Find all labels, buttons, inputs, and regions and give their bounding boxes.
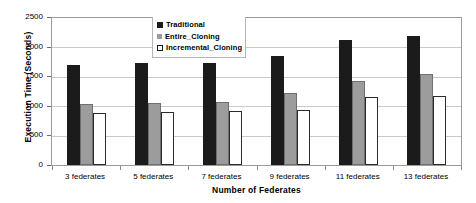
x-axis-tick-mark	[52, 166, 53, 170]
bar-traditional	[203, 63, 216, 165]
x-axis-tick-labels: 3 federates5 federates7 federates9 feder…	[51, 172, 462, 186]
legend-label-traditional: Traditional	[166, 21, 205, 29]
x-axis-tick-mark	[188, 166, 189, 170]
legend-item-incremental-cloning: Incremental_Cloning	[157, 43, 241, 53]
x-axis-tick-mark	[325, 166, 326, 170]
y-axis-tick-label: 2500	[9, 13, 43, 21]
legend: Traditional Entire_Cloning Incremental_C…	[152, 17, 246, 58]
bar-entire	[352, 81, 365, 165]
legend-label-incremental-cloning: Incremental_Cloning	[166, 44, 242, 52]
x-axis-tick-mark	[120, 166, 121, 170]
bar-incremental	[365, 97, 378, 165]
bar-groups	[52, 18, 461, 165]
x-axis-tick-mark	[461, 166, 462, 170]
bar-entire	[148, 103, 161, 165]
bar-incremental	[93, 113, 106, 165]
bar-group	[67, 18, 106, 165]
bar-entire	[216, 102, 229, 165]
y-axis-title: Execution Time (Seconds)	[23, 12, 33, 162]
x-axis-tick-label: 13 federates	[382, 172, 470, 182]
bar-traditional	[135, 63, 148, 165]
bar-incremental	[433, 96, 446, 165]
bar-traditional	[339, 40, 352, 165]
legend-swatch-entire-cloning	[157, 34, 162, 39]
bar-chart: Execution Time (Seconds) 050010001500200…	[0, 0, 476, 203]
bar-traditional	[67, 65, 80, 165]
legend-swatch-incremental-cloning	[157, 45, 163, 51]
legend-item-entire-cloning: Entire_Cloning	[157, 32, 241, 42]
y-axis-tick-label: 0	[9, 161, 43, 169]
x-axis-title: Number of Federates	[51, 185, 462, 195]
y-axis-tick-label: 2000	[9, 43, 43, 51]
bar-group	[339, 18, 378, 165]
bar-group	[271, 18, 310, 165]
x-axis-tick-mark	[257, 166, 258, 170]
bar-traditional	[407, 36, 420, 165]
y-axis-tick-label: 1500	[9, 72, 43, 80]
bar-incremental	[297, 110, 310, 165]
legend-swatch-traditional	[157, 22, 163, 28]
bar-entire	[284, 93, 297, 165]
y-axis-tick-label: 1000	[9, 102, 43, 110]
legend-label-entire-cloning: Entire_Cloning	[165, 33, 220, 41]
y-axis-tick-label: 500	[9, 131, 43, 139]
bar-incremental	[229, 111, 242, 165]
bar-traditional	[271, 56, 284, 165]
bar-group	[407, 18, 446, 165]
bar-incremental	[161, 112, 174, 165]
x-axis-tick-mark	[393, 166, 394, 170]
bar-entire	[80, 104, 93, 165]
bar-entire	[420, 74, 433, 165]
legend-item-traditional: Traditional	[157, 20, 241, 30]
